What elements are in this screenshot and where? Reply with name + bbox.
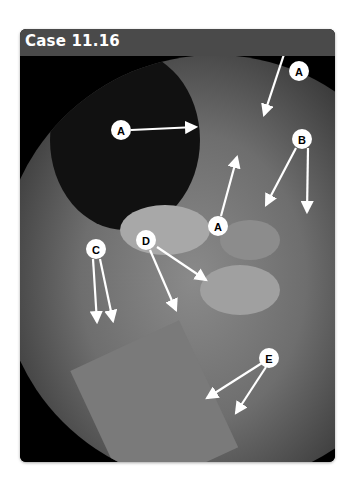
svg-text:A: A (295, 66, 303, 78)
svg-text:E: E (265, 353, 272, 365)
svg-text:A: A (117, 125, 125, 137)
label-b: B (292, 129, 312, 149)
label-a-2: A (111, 120, 131, 140)
svg-text:D: D (142, 235, 150, 247)
fluoroscopy-image: A A A B C D E (20, 56, 335, 462)
case-panel: Case 11.16 (20, 29, 335, 462)
case-title: Case 11.16 (25, 32, 120, 50)
label-d: D (136, 230, 156, 250)
label-e: E (259, 348, 279, 368)
xray-image: A A A B C D E (20, 56, 335, 462)
label-a-3: A (208, 216, 228, 236)
label-c: C (86, 239, 106, 259)
svg-text:A: A (214, 221, 222, 233)
svg-text:C: C (92, 244, 100, 256)
case-header: Case 11.16 (20, 29, 335, 56)
label-a-1: A (289, 61, 309, 81)
svg-text:B: B (298, 134, 306, 146)
